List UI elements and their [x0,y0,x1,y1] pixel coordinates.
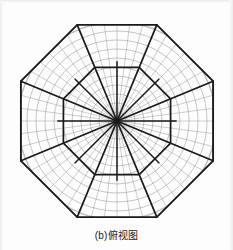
center-node [115,119,118,122]
figure-page: (b)俯视图 [0,0,233,250]
octagonal-dome-top-view-figure [0,0,233,224]
figure-caption: (b)俯视图 [0,227,233,242]
figure-drawing [0,0,233,224]
